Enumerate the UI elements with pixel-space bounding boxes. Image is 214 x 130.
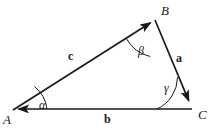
side-a-label: a — [176, 52, 182, 64]
side-b-label: b — [104, 113, 111, 125]
angle-beta-label: β — [138, 45, 144, 57]
vertex-b-label: B — [161, 4, 169, 17]
triangle-diagram-svg — [0, 0, 214, 130]
vertex-c-label: C — [198, 108, 207, 121]
angle-alpha-label: α — [39, 99, 45, 111]
side-c-label: c — [68, 50, 73, 62]
vertex-a-label: A — [3, 113, 11, 126]
side-c-line — [13, 23, 151, 110]
triangle-figure: A B C c a b α β γ — [0, 0, 214, 130]
angle-gamma-label: γ — [164, 82, 169, 94]
side-a-line — [155, 20, 189, 101]
